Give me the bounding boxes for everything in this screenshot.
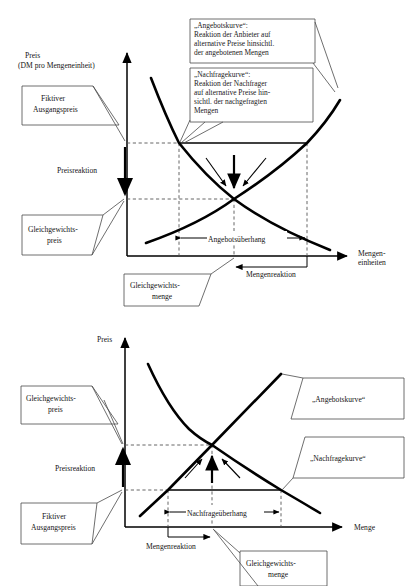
bottom-callout-supply: „Angebotskurve“: [282, 374, 404, 419]
bottom-callout-start-price: Fiktiver Ausgangspreis: [21, 490, 122, 544]
bottom-equilibrium-price-line2: preis: [48, 405, 63, 414]
economics-supply-demand-diagram: Preis (DM pro Mengeneinheit) Mengen- ein…: [0, 0, 410, 586]
bottom-callout-equilibrium-quantity: Gleichgewichts- menge: [213, 529, 327, 586]
top-callout-demand-line1: „Nachfragekurve“:: [194, 70, 250, 79]
diagram-canvas: Preis (DM pro Mengeneinheit) Mengen- ein…: [0, 0, 410, 586]
top-excess-supply-label: Angebotsüberhang: [208, 235, 266, 244]
bottom-start-price-line2: Ausgangspreis: [31, 523, 76, 532]
top-equilibrium-price-line1: Gleichgewichts-: [28, 225, 78, 234]
top-callout-supply-line4: der angebotenen Mengen: [194, 48, 269, 57]
top-x-axis-label-line1: Mengen-: [358, 249, 386, 258]
top-y-axis-label-line1: Preis: [25, 51, 40, 60]
bottom-quantity-reaction-label: Mengenreaktion: [146, 542, 196, 551]
top-equilibrium-price-line2: preis: [47, 236, 62, 245]
bottom-start-price-line1: Fiktiver: [42, 512, 67, 521]
top-callout-demand-line5: Mengen: [194, 106, 219, 115]
bottom-callout-demand: „Nachfragekurve“: [282, 437, 404, 490]
top-callout-supply-line2: Reaktion der Anbieter auf: [194, 30, 271, 39]
bottom-x-axis-label: Menge: [354, 523, 376, 532]
top-equilibrium-quantity-line1: Gleichgewichts-: [130, 281, 180, 290]
bottom-equilibrium-quantity-line1: Gleichgewichts-: [246, 559, 296, 568]
bottom-price-reaction-label: Preisreaktion: [55, 464, 95, 473]
bottom-y-axis-label: Preis: [97, 335, 112, 344]
top-callout-demand-line3: auf alternative Preise hin-: [194, 88, 271, 97]
top-callout-demand-line4: sichtl. der nachgefragten: [194, 97, 267, 106]
top-price-reaction-label: Preisreaktion: [57, 166, 97, 175]
bottom-excess-demand-label: Nachfrageüberhang: [187, 509, 247, 518]
top-y-axis-label-line2: (DM pro Mengeneinheit): [18, 61, 95, 70]
bottom-callout-equilibrium-price: Gleichgewichts- preis: [21, 386, 123, 444]
top-callout-supply-line1: „Angebotskurve“:: [194, 21, 248, 30]
bottom-callout-supply-label: „Angebotskurve“: [312, 395, 366, 404]
bottom-equilibrium-price-line1: Gleichgewichts-: [26, 394, 76, 403]
top-callout-start-price: Fiktiver Ausgangspreis: [22, 86, 125, 141]
top-quantity-reaction-label: Mengenreaktion: [246, 270, 296, 279]
bottom-equilibrium-quantity-line2: menge: [268, 570, 289, 579]
top-start-price-line1: Fiktiver: [41, 94, 66, 103]
chart-bottom: Preis Menge Nachfrageüberhang: [21, 335, 404, 586]
top-callout-demand-line2: Reaktion der Nachfrager: [194, 79, 268, 88]
top-equilibrium-quantity-line2: menge: [152, 292, 173, 301]
top-callout-equilibrium-price: Gleichgewichts- preis: [22, 199, 124, 255]
chart-top: Preis (DM pro Mengeneinheit) Mengen- ein…: [18, 19, 386, 306]
top-convergence-arrow-right: [243, 158, 266, 186]
top-callout-supply-line3: alternative Preise hinsichtl.: [194, 39, 274, 48]
top-callout-demand: „Nachfragekurve“: Reaktion der Nachfrage…: [180, 68, 313, 144]
top-callout-equilibrium-quantity: Gleichgewichts- menge: [124, 258, 234, 306]
bottom-callout-demand-label: „Nachfragekurve“: [310, 454, 366, 463]
top-x-axis-label-line2: einheiten: [358, 258, 386, 267]
top-start-price-line2: Ausgangspreis: [33, 105, 78, 114]
